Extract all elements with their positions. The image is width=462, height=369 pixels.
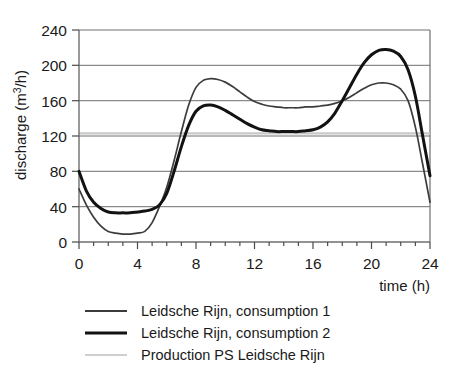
- chart-legend: Leidsche Rijn, consumption 1 Leidsche Ri…: [85, 300, 425, 366]
- x-tick-label-16: 16: [304, 255, 321, 272]
- x-tick-marks: [79, 242, 430, 249]
- legend-swatch-production: [85, 349, 127, 361]
- x-tick-label-20: 20: [363, 255, 381, 272]
- plot-area: 240 200 160 120 80 40 0 0 4 8 12 16 20 2…: [0, 0, 462, 296]
- x-tick-label-8: 8: [192, 255, 201, 272]
- legend-label-consumption-2: Leidsche Rijn, consumption 2: [141, 326, 330, 341]
- x-tick-label-4: 4: [133, 255, 142, 272]
- legend-item-consumption-1: Leidsche Rijn, consumption 1: [85, 300, 425, 322]
- chart-figure: 240 200 160 120 80 40 0 0 4 8 12 16 20 2…: [0, 0, 462, 369]
- series-line-consumption-2: [79, 49, 430, 213]
- plot-svg: 240 200 160 120 80 40 0 0 4 8 12 16 20 2…: [0, 0, 462, 296]
- legend-label-production: Production PS Leidsche Rijn: [141, 348, 325, 363]
- legend-item-production: Production PS Leidsche Rijn: [85, 344, 425, 366]
- legend-swatch-consumption-2: [85, 327, 127, 339]
- y-tick-label-120: 120: [41, 128, 67, 145]
- gridlines: [79, 30, 430, 207]
- y-axis-title: discharge (m3/h): [11, 70, 29, 180]
- y-tick-label-240: 240: [41, 22, 67, 39]
- legend-label-consumption-1: Leidsche Rijn, consumption 1: [141, 304, 330, 319]
- y-tick-label-200: 200: [41, 57, 67, 74]
- series-line-consumption-1: [79, 79, 430, 235]
- x-tick-label-24: 24: [421, 255, 439, 272]
- y-tick-label-160: 160: [41, 93, 67, 110]
- legend-item-consumption-2: Leidsche Rijn, consumption 2: [85, 322, 425, 344]
- y-tick-label-40: 40: [50, 199, 68, 216]
- x-tick-label-0: 0: [75, 255, 84, 272]
- y-tick-label-0: 0: [58, 234, 67, 251]
- y-tick-marks: [72, 30, 79, 242]
- x-tick-label-12: 12: [246, 255, 263, 272]
- y-axis-title-tail: /h): [12, 70, 29, 88]
- y-axis-title-main: discharge (m: [12, 93, 29, 180]
- y-tick-label-80: 80: [50, 163, 68, 180]
- x-axis-title: time (h): [379, 277, 430, 294]
- svg-text:discharge (m3/h): discharge (m3/h): [11, 70, 29, 180]
- legend-swatch-consumption-1: [85, 305, 127, 317]
